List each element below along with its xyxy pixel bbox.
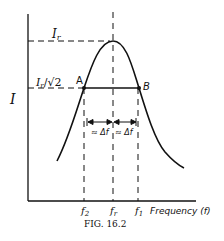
x-axis-label: Frequency (f) xyxy=(150,206,210,216)
figure-caption: FIG. 16.2 xyxy=(84,219,126,229)
tick-f2: f2 xyxy=(80,205,90,218)
point-a-label: A xyxy=(76,75,83,86)
resonance-diagram: Ir Ir/√2 A B I ≈ Δf ≈ Δf f2 fr f1 Freque… xyxy=(0,0,224,241)
resonance-curve xyxy=(57,41,184,168)
point-b-dot xyxy=(137,86,141,90)
delta-right-label: ≈ Δf xyxy=(115,128,134,137)
tick-fr: fr xyxy=(109,205,118,218)
point-a-dot xyxy=(82,86,86,90)
half-power-label: Ir/√2 xyxy=(35,76,61,90)
point-b-label: B xyxy=(143,81,150,92)
delta-f-arrows xyxy=(87,118,136,126)
tick-f1: f1 xyxy=(134,205,143,218)
y-axis-label: I xyxy=(9,91,16,107)
ir-label: Ir xyxy=(51,27,62,42)
delta-left-label: ≈ Δf xyxy=(91,128,110,137)
